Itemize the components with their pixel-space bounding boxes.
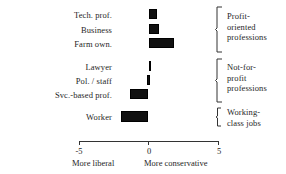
x-axis-tick-label-plus5: 5 <box>209 147 229 156</box>
x-axis-line <box>79 141 219 142</box>
bar-tech-prof <box>149 9 157 19</box>
group-brace-profit-oriented <box>215 6 224 53</box>
category-label-tech-prof: Tech. prof. <box>0 11 112 20</box>
x-axis-caption-left: More liberal <box>72 159 114 168</box>
x-axis-tick-zero <box>148 141 149 145</box>
chart-figure: Tech. prof. Business Farm own. Lawyer Po… <box>0 0 286 174</box>
group-label-line: class jobs <box>227 118 261 129</box>
category-label-svc-based-prof: Svc.-based prof. <box>0 91 112 100</box>
category-label-business: Business <box>0 26 112 35</box>
group-label-line: professions <box>227 32 267 43</box>
category-label-worker: Worker <box>0 113 112 122</box>
x-axis-tick-label-zero: 0 <box>139 147 159 156</box>
bar-business <box>149 24 159 34</box>
x-axis-tick-plus5 <box>218 141 219 145</box>
group-label-line: Profit- <box>227 11 267 22</box>
bar-pol-staff <box>147 75 150 85</box>
bar-farm-own <box>149 38 174 48</box>
bar-worker <box>121 111 148 122</box>
bar-lawyer <box>149 61 151 71</box>
group-label-working-class: Working- class jobs <box>227 107 261 128</box>
group-label-line: oriented <box>227 22 267 33</box>
group-label-line: profit <box>227 73 267 84</box>
group-brace-working-class <box>215 107 224 127</box>
group-label-not-for-profit: Not-for- profit professions <box>227 62 267 94</box>
x-axis-caption-right: More conservative <box>144 159 208 168</box>
group-brace-not-for-profit <box>215 58 224 103</box>
group-label-line: professions <box>227 83 267 94</box>
group-label-line: Not-for- <box>227 62 267 73</box>
group-label-line: Working- <box>227 107 261 118</box>
x-axis-tick-minus5 <box>79 141 80 145</box>
x-axis-tick-label-minus5: -5 <box>69 147 89 156</box>
category-label-pol-staff: Pol. / staff <box>0 77 112 86</box>
category-label-farm-own: Farm own. <box>0 40 112 49</box>
group-label-profit-oriented: Profit- oriented professions <box>227 11 267 43</box>
category-label-lawyer: Lawyer <box>0 63 112 72</box>
bar-svc-based-prof <box>130 89 148 99</box>
